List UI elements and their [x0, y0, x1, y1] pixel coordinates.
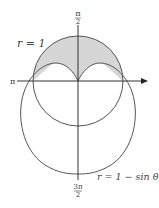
polar-graph: π 2 π 3π 2 r = 1 r = 1 − sin θ: [0, 0, 159, 208]
polar-diagram: π 2 π 3π 2 r = 1 r = 1 − sin θ: [0, 0, 159, 208]
label-pi-over-2-den: 2: [76, 18, 80, 26]
label-cardioid-equation: r = 1 − sin θ: [97, 171, 159, 182]
label-circle-equation: r = 1: [17, 37, 45, 50]
arrow-head-icon: [141, 78, 148, 84]
label-3pi-over-2-num: 3π: [73, 183, 82, 191]
label-pi-over-2-num: π: [75, 9, 80, 18]
label-pi: π: [10, 77, 15, 86]
label-3pi-over-2-den: 2: [76, 191, 80, 199]
